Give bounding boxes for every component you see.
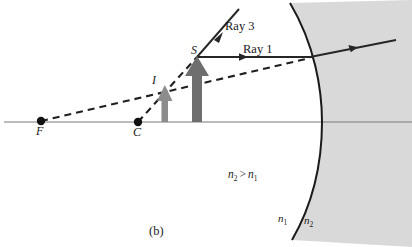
ray-3-incident [197, 9, 239, 57]
center-of-curvature-label: C [133, 126, 141, 138]
medium-1-label: n1 [278, 213, 287, 227]
focal-point-label: F [36, 125, 43, 137]
ray-1-label: Ray 1 [243, 43, 273, 56]
condition-operator: > [238, 168, 249, 180]
diagram-canvas [0, 0, 412, 247]
dashed-line-focal-to-surface [41, 58, 310, 121]
condition-n1-subscript: 1 [254, 174, 258, 183]
medium-2-label: n2 [304, 215, 313, 229]
figure-caption: (b) [149, 225, 164, 238]
condition-n2-subscript: 2 [234, 174, 238, 183]
object-arrow-label: S [191, 44, 197, 56]
medium-1-subscript: 1 [284, 218, 288, 227]
ray-3-label: Ray 3 [225, 20, 255, 33]
optics-refraction-figure: F C I S Ray 3 Ray 1 n2>n1 n1 n2 (b) [0, 0, 412, 247]
medium-2-region [290, 0, 412, 247]
medium-2-subscript: 2 [310, 220, 314, 229]
refractive-index-condition: n2>n1 [228, 169, 258, 183]
image-arrow-label: I [152, 74, 156, 86]
